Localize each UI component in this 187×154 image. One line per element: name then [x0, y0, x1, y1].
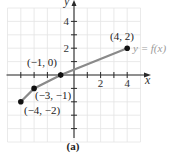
y-tick-label: 4 [64, 15, 70, 27]
y-tick-label: 2 [64, 42, 70, 54]
data-point [58, 72, 64, 78]
data-point [18, 99, 24, 105]
point-label: (−3, −1) [35, 89, 72, 102]
y-axis-arrow-icon [72, 0, 77, 6]
point-label: (−4, −2) [24, 104, 61, 117]
x-tick-label: 4 [124, 77, 130, 89]
x-tick-label: 2 [98, 77, 104, 89]
point-label: (4, 2) [110, 30, 134, 43]
figure-caption: (a) [67, 140, 80, 153]
point-label: (−1, 0) [27, 56, 57, 69]
point-labels: (−4, −2)(−3, −1)(−1, 0)(4, 2) [24, 30, 134, 117]
function-label: y = f(x) [132, 42, 166, 55]
data-point [124, 45, 130, 51]
x-axis-label: x [144, 73, 151, 87]
y-axis-label: y [63, 0, 70, 8]
function-graph: 2424 x y (−4, −2)(−3, −1)(−1, 0)(4, 2) y… [0, 0, 187, 154]
